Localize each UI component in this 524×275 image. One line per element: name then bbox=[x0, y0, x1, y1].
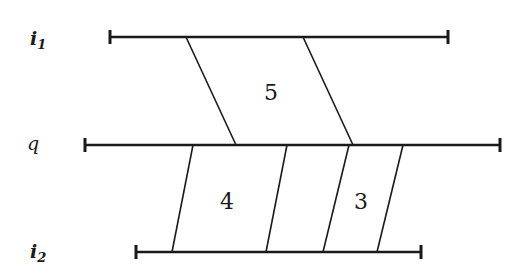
region-label-3: 3 bbox=[354, 189, 368, 214]
slant-lower-2 bbox=[266, 145, 287, 252]
slant-lower-1 bbox=[172, 145, 193, 252]
line-i1 bbox=[110, 30, 448, 44]
region-label-5: 5 bbox=[264, 80, 278, 105]
label-i2: i2 bbox=[30, 240, 46, 265]
region-label-4: 4 bbox=[220, 189, 234, 214]
interval-diagram: i1 q i2 5 4 3 bbox=[0, 0, 524, 275]
slant-lower-3 bbox=[323, 145, 349, 252]
label-i1: i1 bbox=[30, 27, 46, 52]
label-q: q bbox=[27, 132, 39, 154]
line-q bbox=[85, 138, 500, 152]
slant-lower-4 bbox=[377, 145, 403, 252]
slant-upper-left bbox=[186, 37, 236, 145]
slant-upper-right bbox=[303, 37, 353, 145]
